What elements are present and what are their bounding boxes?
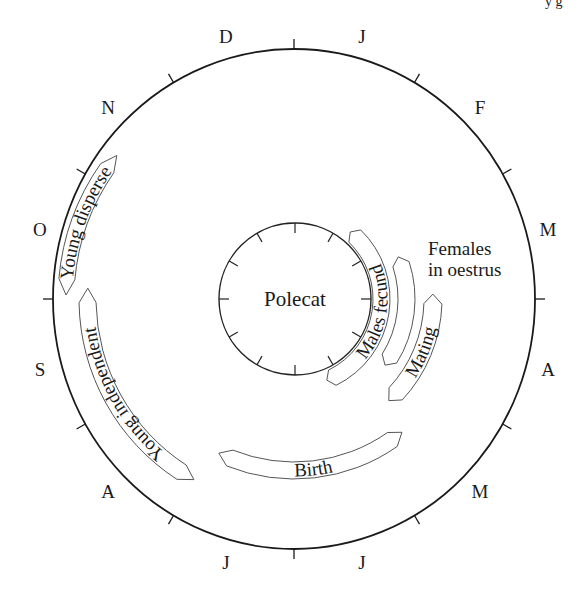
inner-month-tick: [352, 332, 361, 337]
inner-month-tick: [229, 332, 238, 337]
month-label: J: [222, 552, 229, 573]
month-label: J: [358, 552, 365, 573]
month-boundary-tick: [503, 169, 512, 174]
month-label: M: [540, 219, 557, 240]
month-label: J: [358, 26, 365, 47]
month-label: D: [219, 26, 233, 47]
month-label: M: [472, 481, 489, 502]
month-label: O: [33, 219, 47, 240]
inner-month-tick: [229, 261, 238, 266]
inner-month-tick: [257, 356, 262, 365]
inner-month-tick: [352, 261, 361, 266]
month-boundary-tick: [77, 169, 86, 174]
month-boundary-tick: [77, 424, 86, 429]
inner-month-tick: [257, 233, 262, 242]
band-young-disperse: Young disperse: [56, 156, 117, 296]
month-label: A: [101, 481, 115, 502]
month-label: S: [35, 359, 46, 380]
month-label: N: [101, 97, 115, 118]
polecat-annual-cycle-diagram: y g JFMAMJJASOND Polecat Males fecundMat…: [0, 0, 581, 592]
month-boundary-tick: [503, 424, 512, 429]
inner-month-tick: [328, 356, 333, 365]
band-young-independent: Young independent: [78, 288, 193, 479]
month-boundary-tick: [169, 516, 174, 525]
month-label: F: [475, 97, 486, 118]
month-label: A: [541, 359, 555, 380]
page-number-fragment: y g: [545, 0, 563, 9]
month-boundary-tick: [415, 74, 420, 83]
month-boundary-tick: [169, 74, 174, 83]
inner-month-tick: [328, 233, 333, 242]
activity-bands: Males fecundMatingBirthYoung independent…: [56, 156, 442, 481]
band-birth: Birth: [219, 432, 402, 480]
band-label-birth: Birth: [294, 455, 335, 480]
month-boundary-tick: [415, 516, 420, 525]
band-label-young-independent: Young independent: [78, 325, 168, 465]
females-in-oestrus-label: Females in oestrus: [428, 238, 501, 280]
band-label-males-fecund: Males fecund: [351, 261, 391, 362]
center-label-polecat: Polecat: [264, 287, 326, 311]
